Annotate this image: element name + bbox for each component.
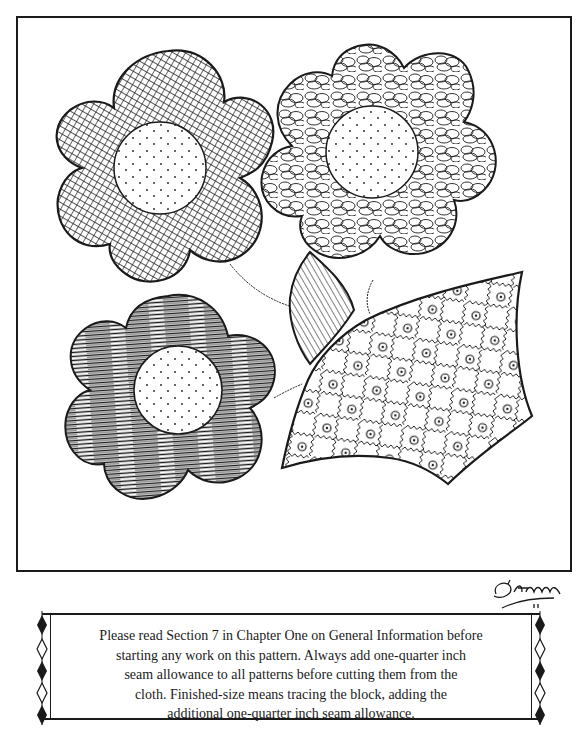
scribble-flower [261, 44, 495, 258]
notice-inner-border-left [50, 615, 51, 718]
crosshatch-flower [57, 50, 274, 281]
notice-inner-border-right [531, 615, 532, 718]
notice-text: Please read Section 7 in Chapter One on … [62, 626, 520, 724]
notice-line: additional one-quarter inch seam allowan… [62, 704, 520, 724]
diamond-chain-left-icon [35, 611, 49, 725]
notice-line: seam allowance to all patterns before cu… [62, 665, 520, 685]
artist-signature: D'Ann [488, 574, 568, 614]
notice-line: cloth. Finished-size means tracing the b… [62, 685, 520, 705]
pattern-block-frame [16, 16, 572, 572]
instructions-notice-box: Please read Section 7 in Chapter One on … [42, 613, 540, 720]
striped-flower [65, 295, 274, 499]
notice-line: Please read Section 7 in Chapter One on … [62, 626, 520, 646]
flower-illustration [18, 18, 570, 570]
notice-line: starting any work on this pattern. Alway… [62, 646, 520, 666]
diamond-chain-right-icon [533, 611, 547, 725]
